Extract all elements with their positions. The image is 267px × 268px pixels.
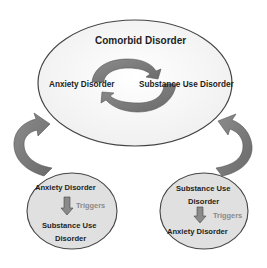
main-right-label: Substance Use Disorder (139, 80, 234, 89)
left-circle-top-label: Anxiety Disorder (35, 181, 96, 195)
right-circle-bottom-label: Anxiety Disorder (167, 225, 228, 239)
left-circle-bottom-line1: Substance Use (42, 219, 96, 233)
left-circle-relation: Triggers (76, 201, 105, 210)
right-circle-top-line1: Substance Use (176, 182, 230, 196)
right-feedback-arrow-icon (216, 114, 252, 176)
left-feedback-arrow-icon (14, 113, 52, 176)
main-left-label: Anxiety Disorder (49, 80, 115, 89)
main-title: Comorbid Disorder (95, 35, 186, 46)
right-circle-top-line2: Disorder (188, 195, 219, 209)
left-circle-bottom-line2: Disorder (55, 232, 86, 246)
right-circle-relation: Triggers (213, 211, 242, 220)
